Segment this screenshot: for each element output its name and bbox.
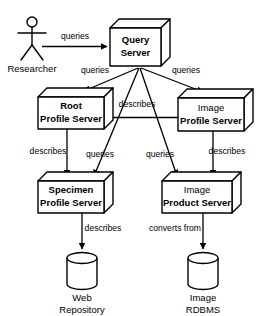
edge-label-query-to-image-profile: queries [172,65,200,75]
node-specimen-profile-server[interactable]: Specimen Profile Server [38,172,113,213]
edge-specimen-to-web-repository: describes [82,213,121,249]
node-image-profile-server-line2: Profile Server [180,115,242,126]
diagram-canvas: queries queries queries queries queries … [0,0,274,316]
edge-query-to-image-product: queries [140,68,177,176]
edge-label-query-to-specimen: queries [86,149,114,159]
node-specimen-profile-server-line2: Profile Server [40,197,102,208]
edge-label-specimen-to-web-repository: describes [85,223,122,233]
edge-researcher-to-query: queries [42,31,107,46]
node-query-server-line2: Server [121,47,151,58]
node-image-product-server-line2: Product Server [163,197,231,208]
node-root-profile-server-line2: Profile Server [40,113,102,124]
architecture-diagram: queries queries queries queries queries … [0,0,274,316]
edge-root-to-specimen: describes [30,129,67,176]
node-specimen-profile-server-line1: Specimen [49,184,94,195]
edge-image-profile-to-image-product: describes [209,131,246,176]
store-web-repository-line1: Web [72,292,91,303]
actor-researcher-label: Researcher [7,63,56,74]
store-image-rdbms[interactable]: Image RDBMS [186,253,220,315]
store-web-repository-line2: Repository [59,304,105,315]
node-root-profile-server-line1: Root [60,100,82,111]
node-image-product-server[interactable]: Image Product Server [162,172,241,213]
store-web-repository[interactable]: Web Repository [59,253,105,315]
node-query-server-line1: Query [122,34,150,45]
store-image-rdbms-line2: RDBMS [186,304,220,315]
edge-label-root-to-image-profile: describes [119,99,156,109]
edge-label-query-to-image-product: queries [146,149,174,159]
edge-label-researcher-to-query: queries [61,31,89,41]
node-image-product-server-line1: Image [184,184,210,195]
edge-query-to-image-profile: queries [141,65,203,92]
edge-query-to-root: queries [81,65,138,91]
edge-image-product-to-rdbms: converts from [149,213,203,249]
edge-label-root-to-specimen: describes [30,146,67,156]
store-image-rdbms-line1: Image [190,292,216,303]
actor-researcher: Researcher [7,17,56,74]
node-query-server[interactable]: Query Server [110,19,170,66]
node-root-profile-server[interactable]: Root Profile Server [38,88,113,129]
node-image-profile-server-line1: Image [198,102,224,113]
node-image-profile-server[interactable]: Image Profile Server [178,89,253,131]
edge-label-query-to-root: queries [81,65,109,75]
edge-label-image-profile-to-image-product: describes [209,146,246,156]
edge-label-image-product-to-rdbms: converts from [149,223,201,233]
